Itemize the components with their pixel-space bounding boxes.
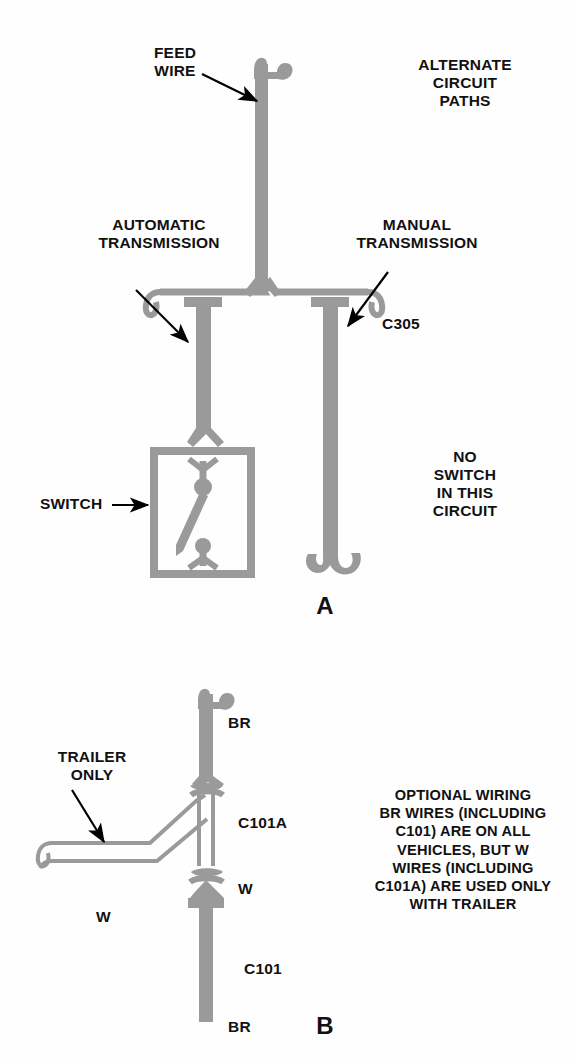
panel-a-letter: A xyxy=(310,592,340,620)
automatic-transmission-leader-arrow xyxy=(136,290,188,342)
no-switch-note-label: NO SWITCH IN THIS CIRCUIT xyxy=(400,448,530,520)
automatic-transmission-label: AUTOMATIC TRANSMISSION xyxy=(66,216,252,252)
w-wire-vertical xyxy=(199,794,213,866)
trailer-only-label: TRAILER ONLY xyxy=(32,748,152,784)
w-wire-horizontal xyxy=(38,795,207,868)
connector-c101a xyxy=(191,791,223,795)
w-wire-horizontal-label: W xyxy=(96,908,126,926)
switch-label: SWITCH xyxy=(40,495,120,513)
connector-c101a-label: C101A xyxy=(238,814,318,832)
br-wire-top-label: BR xyxy=(228,714,278,732)
automatic-transmission-wire xyxy=(184,297,224,447)
br-wire-bottom-label: BR xyxy=(228,1018,278,1036)
figure-page: FEED WIRE ALTERNATE CIRCUIT PATHS AUTOMA… xyxy=(0,0,576,1060)
manual-transmission-label: MANUAL TRANSMISSION xyxy=(322,216,512,252)
optional-wiring-note-label: OPTIONAL WIRING BR WIRES (INCLUDING C101… xyxy=(352,786,574,914)
panel-b-letter: B xyxy=(310,1012,340,1040)
trailer-only-leader-arrow xyxy=(72,790,104,842)
connector-c101-label: C101 xyxy=(244,960,314,978)
feed-wire-conductor xyxy=(244,58,293,297)
connector-c305-label: C305 xyxy=(382,315,452,333)
switch-box xyxy=(154,451,251,574)
panel-a-graphics xyxy=(112,58,388,575)
br-wire-bottom xyxy=(188,880,224,1022)
manual-transmission-wire xyxy=(306,297,361,574)
alternate-circuit-paths-label: ALTERNATE CIRCUIT PATHS xyxy=(375,56,555,110)
panel-b-graphics xyxy=(38,689,235,1022)
connector-c101 xyxy=(190,868,223,882)
br-wire-top xyxy=(190,689,235,791)
w-wire-vertical-label: W xyxy=(238,880,268,898)
feed-wire-label: FEED WIRE xyxy=(132,44,218,80)
